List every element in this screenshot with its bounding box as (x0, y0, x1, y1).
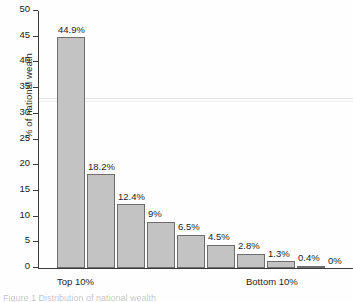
bar-value-label: 44.9% (58, 25, 85, 35)
y-axis-tick-label: 30 (19, 106, 30, 117)
bar-value-label: 18.2% (88, 162, 115, 172)
y-axis-tick: 0 (33, 267, 38, 268)
bar-value-label: 0.4% (298, 253, 320, 263)
bar-value-label: 1.3% (268, 249, 290, 259)
bar-value-label: 0% (328, 256, 342, 266)
bar (297, 266, 325, 268)
y-axis-tick: 40 (33, 61, 38, 62)
y-axis-tick: 5 (33, 241, 38, 242)
bar-value-label: 2.8% (238, 241, 260, 251)
bar-value-label: 4.5% (208, 232, 230, 242)
y-axis-tick: 30 (33, 113, 38, 114)
bar (57, 37, 85, 268)
y-axis-tick: 10 (33, 216, 38, 217)
y-axis-tick-label: 50 (19, 3, 30, 14)
x-axis-caption-left: Top 10% (57, 276, 94, 287)
bar (177, 235, 205, 268)
plot-area: 05101520253035404550 44.9%18.2%12.4%9%6.… (38, 11, 353, 268)
y-axis-tick-label: 25 (19, 132, 30, 143)
y-axis-tick: 45 (33, 36, 38, 37)
y-axis-tick: 20 (33, 164, 38, 165)
y-axis-tick-label: 35 (19, 80, 30, 91)
figure-caption: Figure 1 Distribution of national wealth (3, 293, 349, 302)
y-axis-tick-label: 0 (25, 260, 30, 271)
y-axis-tick: 15 (33, 190, 38, 191)
y-axis-line (38, 11, 39, 269)
bar (117, 204, 145, 268)
y-axis-tick-label: 45 (19, 29, 30, 40)
bar-chart-figure: % of national weath 05101520253035404550… (0, 0, 353, 302)
y-axis-tick-label: 5 (25, 234, 30, 245)
y-axis-tick-label: 15 (19, 183, 30, 194)
y-axis-tick: 35 (33, 87, 38, 88)
bar (237, 254, 265, 268)
bar (207, 245, 235, 268)
y-axis-tick-label: 40 (19, 54, 30, 65)
bar (147, 222, 175, 268)
bar-value-label: 6.5% (178, 222, 200, 232)
bar (87, 174, 115, 268)
y-axis-tick: 25 (33, 139, 38, 140)
y-axis-tick-label: 10 (19, 209, 30, 220)
bar-value-label: 12.4% (118, 192, 145, 202)
y-axis-tick-label: 20 (19, 157, 30, 168)
x-axis-caption-right: Bottom 10% (246, 276, 298, 287)
y-axis-tick: 50 (33, 10, 38, 11)
bar (267, 261, 295, 268)
x-axis-line (38, 268, 353, 269)
bar-value-label: 9% (148, 209, 162, 219)
